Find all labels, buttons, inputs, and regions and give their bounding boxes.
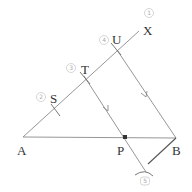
step-5: 5 — [143, 177, 147, 184]
step-3: 3 — [69, 64, 73, 71]
step-2: 2 — [39, 93, 43, 100]
segment-AB — [23, 137, 176, 138]
arc-step-5 — [135, 172, 153, 176]
point-P-marker — [123, 135, 127, 139]
label-T: T — [81, 62, 89, 77]
label-S: S — [50, 91, 57, 106]
ray-AX — [23, 31, 139, 137]
label-P: P — [117, 143, 124, 158]
segment-TP — [84, 76, 146, 172]
step-1: 1 — [147, 9, 151, 16]
step-4: 4 — [102, 36, 106, 43]
parallel-arrow-UB — [141, 91, 147, 97]
label-B: B — [172, 143, 181, 158]
construction-diagram: A B P S T U X 1 4 3 2 5 — [0, 0, 192, 192]
label-U: U — [112, 32, 122, 47]
label-X: X — [143, 23, 153, 38]
label-A: A — [17, 143, 27, 158]
